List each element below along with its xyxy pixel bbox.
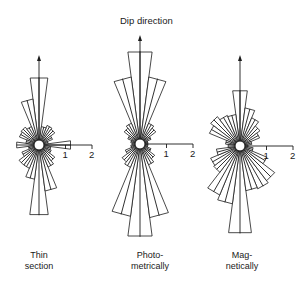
rose-diagram-magnetically: 12 <box>208 55 296 233</box>
arrow-head-icon <box>138 35 142 41</box>
label-line1: Photo- <box>120 250 180 261</box>
scale-tick-label: 1 <box>164 148 169 159</box>
rose-center <box>34 140 44 150</box>
label-line2: section <box>19 261 59 272</box>
arrow-head-icon <box>37 55 41 61</box>
label-line1: Mag- <box>217 250 267 261</box>
rose-diagram-thin-section: 12 <box>17 55 95 215</box>
label-line2: netically <box>217 261 267 272</box>
label-line2: metrically <box>120 261 180 272</box>
arrow-head-icon <box>238 55 242 61</box>
scale-tick-label: 2 <box>190 148 195 159</box>
rose-center <box>235 141 245 151</box>
scale-tick-label: 1 <box>264 150 269 161</box>
scale-tick-label: 2 <box>290 150 295 161</box>
rose-center <box>135 139 145 149</box>
label-magnetically: Mag- netically <box>217 250 267 272</box>
scale-tick-label: 1 <box>63 149 68 160</box>
rose-diagrams: 12 12 12 <box>0 0 299 283</box>
label-line1: Thin <box>19 250 59 261</box>
label-photometrically: Photo- metrically <box>120 250 180 272</box>
rose-diagram-photometrically: 12 <box>112 35 195 237</box>
label-thin-section: Thin section <box>19 250 59 272</box>
scale-tick-label: 2 <box>89 149 94 160</box>
